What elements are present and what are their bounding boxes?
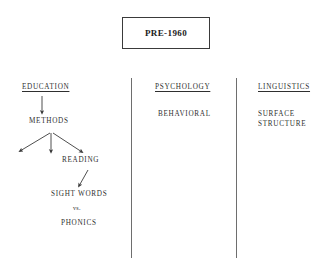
node-methods: METHODS bbox=[29, 117, 69, 125]
column-divider-right bbox=[236, 78, 237, 258]
title-box-label: PRE-1960 bbox=[145, 28, 187, 38]
title-box: PRE-1960 bbox=[122, 17, 210, 49]
node-sight-words: SIGHT WORDS bbox=[51, 190, 107, 198]
column-heading-psychology: PSYCHOLOGY bbox=[155, 83, 210, 91]
column-heading-linguistics: LINGUISTICS bbox=[258, 83, 310, 91]
node-behavioral: BEHAVIORAL bbox=[158, 110, 211, 118]
node-phonics: PHONICS bbox=[61, 219, 97, 227]
column-divider-left bbox=[131, 78, 132, 258]
node-reading: READING bbox=[62, 156, 99, 164]
arrow-methods-to-reading bbox=[53, 133, 82, 152]
node-surface-structure: SURFACESTRUCTURE bbox=[258, 110, 306, 129]
arrow-reading-to-sight-words bbox=[79, 170, 88, 186]
diagram-canvas: PRE-1960 EDUCATION METHODS READING SIGHT… bbox=[0, 0, 323, 273]
column-heading-education: EDUCATION bbox=[22, 83, 69, 91]
node-versus: vs. bbox=[73, 205, 81, 211]
arrow-methods-to-left bbox=[20, 133, 50, 151]
